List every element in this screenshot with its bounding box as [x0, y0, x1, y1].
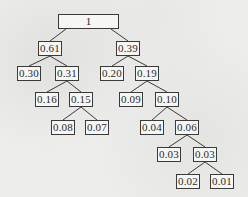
tree-node-root: 1	[58, 14, 119, 29]
tree-node-0-08: 0.08	[51, 120, 75, 135]
tree-node-0-07: 0.07	[85, 120, 109, 135]
tree-node-0-39: 0.39	[116, 41, 140, 56]
tree-node-0-15: 0.15	[69, 92, 93, 107]
tree-node-0-30: 0.30	[17, 66, 41, 81]
tree-node-0-61: 0.61	[38, 41, 62, 56]
tree-node-0-04: 0.04	[140, 120, 164, 135]
tree-node-0-03a: 0.03	[157, 147, 181, 162]
tree-node-0-03b: 0.03	[193, 147, 217, 162]
tree-node-0-20: 0.20	[100, 66, 124, 81]
tree-node-0-06: 0.06	[175, 120, 199, 135]
tree-node-0-16: 0.16	[35, 92, 59, 107]
tree-node-0-01: 0.01	[210, 174, 234, 189]
tree-node-0-10: 0.10	[155, 92, 179, 107]
tree-node-0-09: 0.09	[119, 92, 143, 107]
tree-node-0-31: 0.31	[55, 66, 79, 81]
tree-node-0-19: 0.19	[135, 66, 159, 81]
tree-node-0-02: 0.02	[176, 174, 200, 189]
